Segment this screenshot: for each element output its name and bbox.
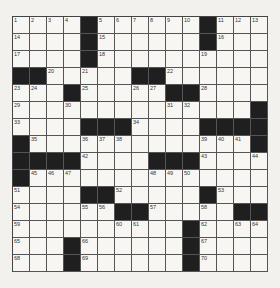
grid-cell[interactable] bbox=[200, 170, 217, 187]
grid-cell[interactable]: 55 bbox=[81, 204, 98, 221]
grid-cell[interactable] bbox=[217, 85, 234, 102]
grid-cell[interactable] bbox=[81, 221, 98, 238]
grid-cell[interactable]: 24 bbox=[30, 85, 47, 102]
grid-cell[interactable] bbox=[149, 51, 166, 68]
grid-cell[interactable] bbox=[64, 51, 81, 68]
grid-cell[interactable]: 20 bbox=[47, 68, 64, 85]
grid-cell[interactable] bbox=[132, 153, 149, 170]
grid-cell[interactable]: 19 bbox=[200, 51, 217, 68]
grid-cell[interactable]: 33 bbox=[13, 119, 30, 136]
grid-cell[interactable]: 52 bbox=[115, 187, 132, 204]
grid-cell[interactable] bbox=[132, 238, 149, 255]
grid-cell[interactable] bbox=[98, 221, 115, 238]
grid-cell[interactable]: 46 bbox=[47, 170, 64, 187]
grid-cell[interactable] bbox=[30, 102, 47, 119]
grid-cell[interactable] bbox=[115, 238, 132, 255]
grid-cell[interactable] bbox=[132, 255, 149, 272]
grid-cell[interactable] bbox=[98, 85, 115, 102]
grid-cell[interactable] bbox=[217, 170, 234, 187]
grid-cell[interactable]: 41 bbox=[234, 136, 251, 153]
grid-cell[interactable] bbox=[47, 102, 64, 119]
grid-cell[interactable]: 66 bbox=[81, 238, 98, 255]
grid-cell[interactable]: 51 bbox=[13, 187, 30, 204]
grid-cell[interactable] bbox=[47, 221, 64, 238]
grid-cell[interactable] bbox=[64, 68, 81, 85]
grid-cell[interactable] bbox=[234, 51, 251, 68]
grid-cell[interactable] bbox=[183, 34, 200, 51]
grid-cell[interactable] bbox=[183, 187, 200, 204]
grid-cell[interactable] bbox=[47, 136, 64, 153]
grid-cell[interactable] bbox=[183, 136, 200, 153]
grid-cell[interactable] bbox=[30, 255, 47, 272]
grid-cell[interactable]: 49 bbox=[166, 170, 183, 187]
grid-cell[interactable] bbox=[149, 34, 166, 51]
grid-cell[interactable]: 3 bbox=[47, 17, 64, 34]
grid-cell[interactable]: 1 bbox=[13, 17, 30, 34]
grid-cell[interactable]: 62 bbox=[200, 221, 217, 238]
grid-cell[interactable]: 45 bbox=[30, 170, 47, 187]
grid-cell[interactable] bbox=[98, 255, 115, 272]
grid-cell[interactable] bbox=[115, 68, 132, 85]
grid-cell[interactable] bbox=[64, 204, 81, 221]
grid-cell[interactable] bbox=[115, 153, 132, 170]
grid-cell[interactable] bbox=[234, 34, 251, 51]
grid-cell[interactable]: 7 bbox=[132, 17, 149, 34]
grid-cell[interactable] bbox=[115, 102, 132, 119]
grid-cell[interactable]: 22 bbox=[166, 68, 183, 85]
grid-cell[interactable]: 60 bbox=[115, 221, 132, 238]
grid-cell[interactable]: 34 bbox=[132, 119, 149, 136]
grid-cell[interactable]: 63 bbox=[234, 221, 251, 238]
grid-cell[interactable] bbox=[149, 119, 166, 136]
grid-cell[interactable] bbox=[98, 153, 115, 170]
grid-cell[interactable] bbox=[217, 255, 234, 272]
grid-cell[interactable] bbox=[64, 34, 81, 51]
grid-cell[interactable]: 32 bbox=[183, 102, 200, 119]
grid-cell[interactable]: 28 bbox=[200, 85, 217, 102]
grid-cell[interactable] bbox=[98, 238, 115, 255]
grid-cell[interactable] bbox=[234, 238, 251, 255]
grid-cell[interactable] bbox=[115, 51, 132, 68]
grid-cell[interactable] bbox=[149, 187, 166, 204]
grid-cell[interactable] bbox=[98, 102, 115, 119]
grid-cell[interactable] bbox=[251, 34, 268, 51]
grid-cell[interactable] bbox=[30, 238, 47, 255]
grid-cell[interactable]: 29 bbox=[13, 102, 30, 119]
grid-cell[interactable] bbox=[47, 187, 64, 204]
grid-cell[interactable] bbox=[30, 204, 47, 221]
grid-cell[interactable] bbox=[98, 170, 115, 187]
grid-cell[interactable] bbox=[47, 204, 64, 221]
grid-cell[interactable] bbox=[251, 238, 268, 255]
grid-cell[interactable]: 53 bbox=[217, 187, 234, 204]
grid-cell[interactable]: 47 bbox=[64, 170, 81, 187]
grid-cell[interactable]: 11 bbox=[217, 17, 234, 34]
grid-cell[interactable] bbox=[30, 119, 47, 136]
grid-cell[interactable]: 37 bbox=[98, 136, 115, 153]
grid-cell[interactable] bbox=[132, 136, 149, 153]
grid-cell[interactable] bbox=[81, 170, 98, 187]
grid-cell[interactable]: 56 bbox=[98, 204, 115, 221]
grid-cell[interactable] bbox=[166, 238, 183, 255]
grid-cell[interactable]: 65 bbox=[13, 238, 30, 255]
grid-cell[interactable] bbox=[149, 238, 166, 255]
grid-cell[interactable] bbox=[115, 170, 132, 187]
grid-cell[interactable]: 38 bbox=[115, 136, 132, 153]
grid-cell[interactable] bbox=[251, 187, 268, 204]
grid-cell[interactable]: 59 bbox=[13, 221, 30, 238]
grid-cell[interactable]: 50 bbox=[183, 170, 200, 187]
grid-cell[interactable] bbox=[132, 34, 149, 51]
grid-cell[interactable] bbox=[234, 153, 251, 170]
grid-cell[interactable] bbox=[30, 187, 47, 204]
grid-cell[interactable]: 68 bbox=[13, 255, 30, 272]
grid-cell[interactable]: 57 bbox=[149, 204, 166, 221]
grid-cell[interactable] bbox=[30, 51, 47, 68]
grid-cell[interactable] bbox=[166, 221, 183, 238]
grid-cell[interactable] bbox=[132, 102, 149, 119]
grid-cell[interactable] bbox=[217, 204, 234, 221]
grid-cell[interactable] bbox=[47, 119, 64, 136]
grid-cell[interactable] bbox=[47, 238, 64, 255]
grid-cell[interactable] bbox=[217, 51, 234, 68]
grid-cell[interactable]: 13 bbox=[251, 17, 268, 34]
grid-cell[interactable]: 9 bbox=[166, 17, 183, 34]
grid-cell[interactable]: 21 bbox=[81, 68, 98, 85]
grid-cell[interactable]: 43 bbox=[200, 153, 217, 170]
